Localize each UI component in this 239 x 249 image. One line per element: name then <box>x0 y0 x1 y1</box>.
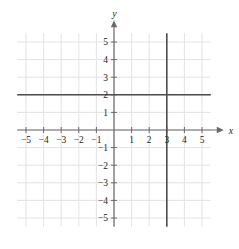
y-axis-arrowhead <box>111 20 117 27</box>
y-tick-label: 2 <box>103 90 108 100</box>
axis-lines <box>17 20 224 227</box>
y-tick-label: −2 <box>98 161 108 171</box>
x-tick-label: 5 <box>200 135 205 145</box>
axis-name-labels: xy <box>111 8 234 135</box>
y-tick-label: −5 <box>98 213 108 223</box>
coordinate-plane-figure: −5−4−3−2−11234554321−1−2−3−4−5 xy <box>0 0 239 249</box>
y-tick-label: −1 <box>98 143 108 153</box>
y-tick-label: 1 <box>103 108 108 118</box>
x-tick-label: 2 <box>147 135 152 145</box>
y-tick-label: 3 <box>103 73 108 83</box>
y-axis-name-label: y <box>111 8 117 19</box>
y-tick-label: 4 <box>103 55 108 65</box>
y-tick-label: 5 <box>103 37 108 47</box>
y-tick-label: −3 <box>98 178 108 188</box>
x-axis-name-label: x <box>228 125 234 136</box>
x-axis-arrowhead <box>217 127 224 133</box>
x-tick-label: 3 <box>164 135 169 145</box>
y-tick-label: −4 <box>98 196 108 206</box>
x-tick-label: −4 <box>39 135 49 145</box>
x-tick-label: 1 <box>129 135 134 145</box>
coordinate-plane-svg: −5−4−3−2−11234554321−1−2−3−4−5 xy <box>0 0 239 249</box>
x-tick-label: 4 <box>182 135 187 145</box>
x-tick-label: −5 <box>21 135 31 145</box>
x-tick-label: −2 <box>74 135 84 145</box>
x-tick-label: −3 <box>56 135 66 145</box>
